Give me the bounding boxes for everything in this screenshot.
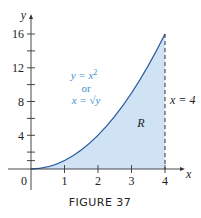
x-axis-label: x	[185, 167, 192, 181]
y-tick-12: 12	[12, 61, 24, 75]
x-tick-1: 1	[62, 174, 68, 188]
curve-label-or: or	[81, 82, 91, 94]
figure-caption: FIGURE 37	[69, 196, 132, 209]
boundary-label: x = 4	[169, 93, 195, 107]
x-tick-2: 2	[95, 174, 101, 188]
x-tick-3: 3	[129, 174, 135, 188]
region-label: R	[136, 116, 145, 130]
x-axis-arrow-icon	[180, 167, 185, 171]
curve-label-inverse: x = √y	[71, 94, 101, 106]
y-axis-arrow-icon	[29, 14, 33, 19]
curve-label-equation: y = x2	[70, 68, 98, 81]
y-tick-16: 16	[12, 27, 24, 41]
origin-label: 0	[21, 174, 27, 188]
y-tick-4: 4	[18, 129, 24, 143]
y-tick-8: 8	[18, 95, 24, 109]
chart-figure: 1 2 3 4 0 4 8 12 16 x y y = x2 or x = √y…	[0, 0, 201, 218]
y-axis-label: y	[20, 8, 27, 22]
x-tick-4: 4	[162, 174, 168, 188]
